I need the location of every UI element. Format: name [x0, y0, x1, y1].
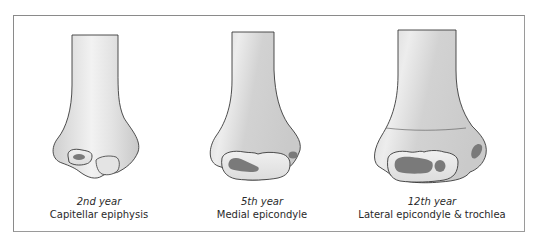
bone-12th-year [375, 30, 487, 183]
caption-12th-year: 12th year Lateral epicondyle & trochlea [358, 195, 505, 221]
ossification-center-medial-epicondyle [289, 152, 298, 159]
bone-5th-year [210, 32, 300, 180]
humerus-distal-2nd-year [53, 35, 139, 178]
ossification-center-trochlea [435, 160, 446, 172]
trochlear-cartilage-2nd [96, 156, 119, 175]
year-label: 5th year [217, 195, 307, 208]
ossification-center-label: Capitellar epiphysis [50, 208, 148, 221]
year-label: 12th year [358, 195, 505, 208]
bone-2nd-year [53, 35, 139, 178]
caption-2nd-year: 2nd year Capitellar epiphysis [50, 195, 148, 221]
year-label: 2nd year [50, 195, 148, 208]
ossification-center-label: Lateral epicondyle & trochlea [358, 208, 505, 221]
ossification-center-capitellum [73, 154, 85, 160]
ossification-center-label: Medial epicondyle [217, 208, 307, 221]
caption-5th-year: 5th year Medial epicondyle [217, 195, 307, 221]
